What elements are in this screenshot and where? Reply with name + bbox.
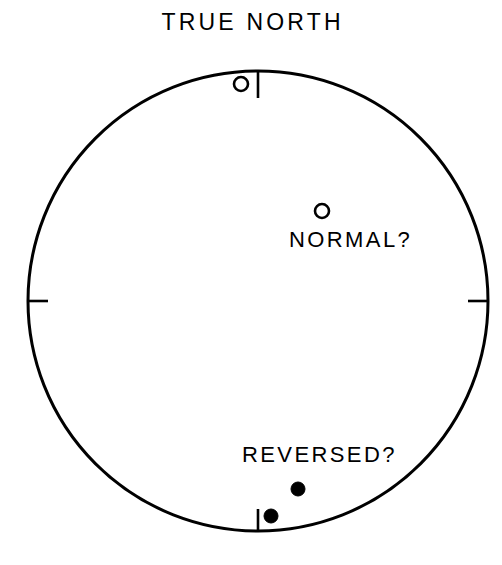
stereonet-plot bbox=[0, 0, 502, 565]
stereonet-figure: TRUE NORTH NORMAL? REVERSED? bbox=[0, 0, 502, 565]
data-point-normal-1 bbox=[234, 77, 248, 91]
data-point-reversed-2 bbox=[264, 509, 278, 523]
group-label-reversed: REVERSED? bbox=[242, 444, 397, 466]
figure-title-true-north: TRUE NORTH bbox=[0, 11, 502, 34]
data-point-reversed-1 bbox=[291, 482, 305, 496]
group-label-normal: NORMAL? bbox=[289, 229, 412, 251]
data-point-normal-2 bbox=[315, 204, 329, 218]
